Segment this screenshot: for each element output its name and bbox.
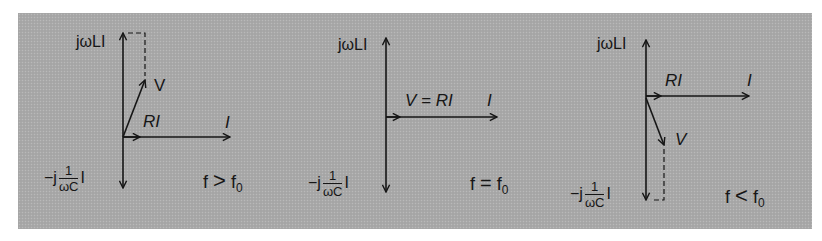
capacitive-prefix: −j bbox=[308, 174, 321, 191]
condition-operator: = bbox=[480, 172, 492, 194]
inductive-label: jωLI bbox=[338, 37, 367, 53]
net-reactance-dashed-line bbox=[128, 33, 145, 76]
inductive-label: jωLI bbox=[597, 36, 626, 52]
diagram-below-resonance bbox=[646, 40, 749, 200]
capacitive-fraction: 1ωC bbox=[585, 180, 605, 209]
resistive-label: RI bbox=[665, 72, 682, 89]
capacitive-fraction: 1ωC bbox=[59, 164, 79, 193]
fraction-numerator: 1 bbox=[323, 169, 343, 184]
voltage-label: V = RI bbox=[405, 92, 453, 109]
current-label: I bbox=[487, 92, 492, 109]
fraction-denominator: ωC bbox=[323, 184, 343, 198]
capacitive-label: −j1ωCI bbox=[308, 169, 349, 198]
capacitive-suffix: I bbox=[344, 174, 348, 191]
current-label: I bbox=[747, 72, 752, 89]
fraction-denominator: ωC bbox=[585, 195, 605, 209]
condition-label: f < f0 bbox=[725, 185, 765, 209]
condition-subscript: 0 bbox=[236, 181, 243, 195]
capacitive-prefix: −j bbox=[570, 185, 583, 202]
phasor-diagrams bbox=[0, 0, 822, 241]
capacitive-prefix: −j bbox=[44, 169, 57, 186]
net-reactance-dashed-line bbox=[651, 149, 664, 200]
condition-label: f = f0 bbox=[470, 173, 508, 196]
condition-subscript: 0 bbox=[502, 183, 509, 197]
inductive-label: jωLI bbox=[76, 34, 105, 50]
condition-lhs: f bbox=[203, 172, 208, 192]
diagram-at-resonance bbox=[386, 38, 497, 192]
current-label: I bbox=[225, 114, 230, 131]
condition-subscript: 0 bbox=[758, 196, 765, 210]
diagram-above-resonance bbox=[123, 33, 230, 188]
condition-operator: < bbox=[735, 183, 748, 208]
condition-operator: > bbox=[213, 168, 226, 193]
condition-lhs: f bbox=[725, 187, 730, 207]
capacitive-fraction: 1ωC bbox=[323, 169, 343, 198]
fraction-numerator: 1 bbox=[585, 180, 605, 195]
fraction-numerator: 1 bbox=[59, 164, 79, 179]
resistive-label: RI bbox=[143, 113, 160, 130]
capacitive-label: −j1ωCI bbox=[44, 164, 85, 193]
voltage-label: V bbox=[675, 131, 686, 148]
capacitive-label: −j1ωCI bbox=[570, 180, 611, 209]
voltage-arrow bbox=[123, 80, 145, 137]
voltage-arrow bbox=[646, 98, 664, 145]
condition-lhs: f bbox=[470, 174, 475, 194]
condition-label: f > f0 bbox=[203, 170, 243, 194]
capacitive-suffix: I bbox=[80, 169, 84, 186]
voltage-label: V bbox=[154, 77, 165, 94]
fraction-denominator: ωC bbox=[59, 179, 79, 193]
capacitive-suffix: I bbox=[606, 185, 610, 202]
